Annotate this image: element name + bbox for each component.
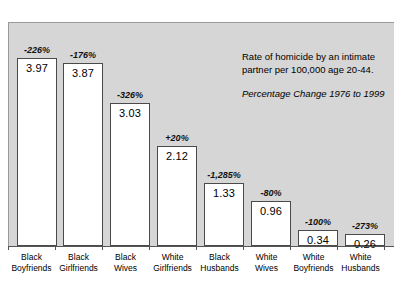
percent-change-label: -226%	[13, 45, 61, 55]
axis-tick	[290, 246, 291, 250]
bar-group-7: -273% 0.26	[345, 22, 385, 246]
category-label-line1: Black	[55, 252, 102, 263]
axis-tick	[102, 246, 103, 250]
category-label-0: Black Boyfriends	[8, 252, 55, 274]
percent-change-label: -273%	[341, 221, 389, 231]
bar-value-label: 3.97	[18, 62, 56, 75]
category-label-line1: White	[243, 252, 290, 263]
bar-value-label: 1.33	[205, 187, 243, 200]
axis-tick	[243, 246, 244, 250]
bar[interactable]: 3.03	[110, 103, 150, 246]
bar-group-4: -1,285% 1.33	[204, 22, 244, 246]
category-label-line2: Wives	[243, 263, 290, 274]
plot-area: Rate of homicide by an intimate partner …	[8, 22, 394, 246]
category-label-5: White Wives	[243, 252, 290, 274]
percent-change-label: -1,285%	[200, 170, 248, 180]
axis-tick	[8, 246, 9, 250]
bar[interactable]: 0.96	[251, 201, 291, 246]
bar-value-label: 0.26	[346, 238, 384, 251]
category-label-line1: White	[149, 252, 196, 263]
homicide-rate-bar-chart: Rate of homicide by an intimate partner …	[0, 0, 394, 285]
bar-group-1: -176% 3.87	[63, 22, 103, 246]
category-label-line2: Boyfriends	[290, 263, 337, 274]
category-label-line1: White	[337, 252, 384, 263]
percent-change-label: -80%	[247, 188, 295, 198]
category-label-1: Black Girlfriends	[55, 252, 102, 274]
category-label-line2: Husbands	[337, 263, 384, 274]
bar[interactable]: 2.12	[157, 146, 197, 246]
category-label-3: White Girlfriends	[149, 252, 196, 274]
percent-change-label: -100%	[294, 217, 342, 227]
category-label-line2: Wives	[102, 263, 149, 274]
category-label-6: White Boyfriends	[290, 252, 337, 274]
category-label-7: White Husbands	[337, 252, 384, 274]
category-label-line2: Husbands	[196, 263, 243, 274]
category-label-line2: Girlfriends	[149, 263, 196, 274]
bar-group-3: +20% 2.12	[157, 22, 197, 246]
bar-group-6: -100% 0.34	[298, 22, 338, 246]
bar[interactable]: 3.87	[63, 63, 103, 246]
category-label-4: Black Husbands	[196, 252, 243, 274]
category-label-line2: Boyfriends	[8, 263, 55, 274]
bar[interactable]: 0.34	[298, 230, 338, 246]
category-label-line1: Black	[196, 252, 243, 263]
axis-tick	[149, 246, 150, 250]
axis-tick	[384, 246, 385, 250]
bar-value-label: 0.96	[252, 205, 290, 218]
category-label-2: Black Wives	[102, 252, 149, 274]
axis-tick	[196, 246, 197, 250]
bar[interactable]: 0.26	[345, 234, 385, 246]
axis-tick	[55, 246, 56, 250]
percent-change-label: -326%	[106, 90, 154, 100]
category-label-line2: Girlfriends	[55, 263, 102, 274]
category-label-line1: Black	[102, 252, 149, 263]
percent-change-label: +20%	[153, 133, 201, 143]
bar[interactable]: 1.33	[204, 183, 244, 246]
bar[interactable]: 3.97	[17, 58, 57, 246]
bar-group-5: -80% 0.96	[251, 22, 291, 246]
category-label-line1: White	[290, 252, 337, 263]
bar-value-label: 3.87	[64, 67, 102, 80]
percent-change-label: -176%	[59, 50, 107, 60]
bar-value-label: 2.12	[158, 150, 196, 163]
bar-group-2: -326% 3.03	[110, 22, 150, 246]
bar-value-label: 3.03	[111, 107, 149, 120]
axis-tick	[337, 246, 338, 250]
bar-group-0: -226% 3.97	[17, 22, 57, 246]
category-label-line1: Black	[8, 252, 55, 263]
